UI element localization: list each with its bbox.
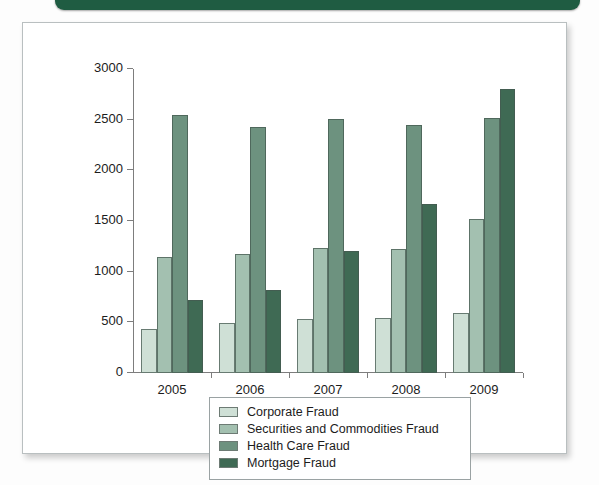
bar-2005-series-3	[188, 300, 204, 373]
x-axis-label-2005: 2005	[158, 382, 187, 397]
y-axis-tick-label: 1500	[94, 212, 123, 228]
bar-2009-series-0	[453, 313, 469, 373]
plot-area: 050010001500200025003000 200520062007200…	[133, 69, 523, 373]
bar-2005-series-1	[157, 257, 173, 373]
bar-2007-series-2	[328, 119, 344, 373]
bar-2008-series-2	[406, 125, 422, 373]
legend-item: Health Care Fraud	[219, 438, 461, 454]
bar-2009-series-1	[469, 219, 485, 373]
bar-2007-series-1	[313, 248, 329, 373]
x-axis-tick	[445, 373, 446, 378]
y-axis-tick: 2500	[127, 119, 133, 120]
bar-2008-series-1	[391, 249, 407, 373]
y-axis-tick: 1000	[127, 271, 133, 272]
legend-label: Mortgage Fraud	[247, 456, 336, 470]
bar-2007-series-0	[297, 319, 313, 373]
bar-2006-series-0	[219, 323, 235, 373]
chart-figure-frame: 050010001500200025003000 200520062007200…	[22, 22, 567, 454]
bar-2008-series-0	[375, 318, 391, 373]
y-axis-line	[133, 69, 134, 373]
bar-2009-series-3	[500, 89, 516, 373]
bar-2005-series-0	[141, 329, 157, 373]
bar-2009-series-2	[484, 118, 500, 373]
y-axis-tick: 500	[127, 321, 133, 322]
y-axis-tick-label: 1000	[94, 263, 123, 279]
x-axis-tick	[523, 373, 524, 378]
x-axis-tick	[367, 373, 368, 378]
bar-2005-series-2	[172, 115, 188, 373]
legend-swatch-icon	[219, 424, 238, 434]
legend-item: Securities and Commodities Fraud	[219, 421, 461, 437]
bar-2006-series-2	[250, 127, 266, 373]
y-axis-tick: 2000	[127, 169, 133, 170]
legend-label: Health Care Fraud	[247, 439, 350, 453]
x-axis-label-2008: 2008	[392, 382, 421, 397]
bar-2008-series-3	[422, 204, 438, 373]
x-axis-label-2009: 2009	[470, 382, 499, 397]
page-header-banner	[55, 0, 580, 10]
x-axis-label-2007: 2007	[314, 382, 343, 397]
y-axis-tick-label: 2500	[94, 111, 123, 127]
y-axis-tick-label: 0	[116, 364, 123, 380]
bar-2006-series-1	[235, 254, 251, 373]
bar-2006-series-3	[266, 290, 282, 373]
legend-swatch-icon	[219, 441, 238, 451]
bar-2007-series-3	[344, 251, 360, 373]
y-axis-tick-label: 500	[101, 313, 123, 329]
y-axis-tick-label: 3000	[94, 60, 123, 76]
x-axis-tick	[211, 373, 212, 378]
chart-legend: Corporate FraudSecurities and Commoditie…	[209, 397, 471, 480]
legend-item: Corporate Fraud	[219, 404, 461, 420]
y-axis-tick: 0	[127, 372, 133, 373]
y-axis-tick: 3000	[127, 68, 133, 69]
legend-item: Mortgage Fraud	[219, 455, 461, 471]
legend-label: Securities and Commodities Fraud	[247, 422, 439, 436]
x-axis-label-2006: 2006	[236, 382, 265, 397]
x-axis-tick	[289, 373, 290, 378]
legend-label: Corporate Fraud	[247, 405, 339, 419]
y-axis-tick-label: 2000	[94, 161, 123, 177]
legend-swatch-icon	[219, 407, 238, 417]
y-axis-tick: 1500	[127, 220, 133, 221]
legend-swatch-icon	[219, 458, 238, 468]
